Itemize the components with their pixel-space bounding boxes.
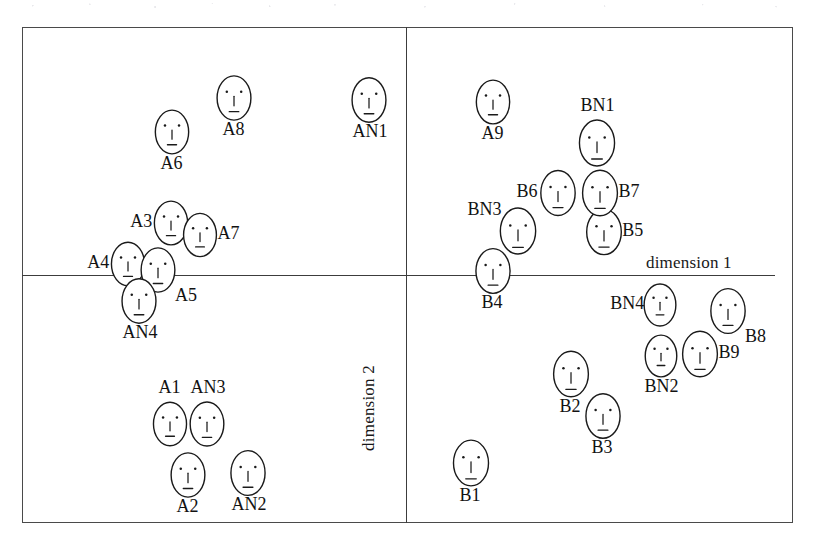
face-drawing: [473, 77, 513, 127]
face-label-bn1: BN1: [581, 96, 615, 114]
face-label-a3: A3: [130, 212, 152, 230]
face-drawing: [680, 329, 720, 379]
face-label-b7: B7: [618, 182, 639, 200]
face-drawing: [583, 391, 623, 441]
face-drawing: [150, 399, 190, 449]
mds-face-plot: dimension 1 dimension 2 A1A2A3A4A5A6A7A8…: [0, 0, 817, 542]
face-drawing: [580, 168, 620, 218]
face-label-an1: AN1: [353, 122, 388, 140]
face-label-a8: A8: [222, 120, 244, 138]
face-label-bn2: BN2: [645, 377, 679, 395]
face-drawing: [187, 399, 227, 449]
dimension-2-axis-line: [406, 27, 407, 523]
face-label-an3: AN3: [191, 378, 226, 396]
face-drawing: [538, 168, 578, 218]
face-label-a2: A2: [176, 497, 198, 515]
face-label-b3: B3: [591, 438, 612, 456]
face-drawing: [180, 210, 220, 260]
face-drawing: [640, 280, 680, 330]
dimension-1-axis-label: dimension 1: [646, 253, 732, 273]
face-label-a7: A7: [217, 224, 239, 242]
dimension-2-axis-label: dimension 2: [359, 365, 379, 451]
face-drawing: [119, 276, 159, 326]
face-label-bn4: BN4: [610, 294, 644, 312]
face-label-b1: B1: [459, 486, 480, 504]
face-label-b6: B6: [517, 182, 538, 200]
face-drawing: [349, 75, 389, 125]
face-label-a9: A9: [481, 124, 503, 142]
face-label-b8: B8: [745, 327, 766, 345]
face-label-a1: A1: [158, 378, 180, 396]
face-drawing: [641, 331, 681, 381]
face-drawing: [168, 450, 208, 500]
face-label-b5: B5: [622, 221, 643, 239]
face-label-a6: A6: [160, 154, 182, 172]
face-drawing: [577, 118, 617, 168]
face-label-b4: B4: [481, 293, 502, 311]
face-drawing: [214, 73, 254, 123]
face-label-an4: AN4: [123, 323, 158, 341]
face-drawing: [152, 107, 192, 157]
face-label-b9: B9: [718, 343, 739, 361]
face-label-b2: B2: [559, 397, 580, 415]
face-label-an2: AN2: [232, 495, 267, 513]
face-label-a4: A4: [87, 253, 109, 271]
face-drawing: [498, 206, 538, 256]
face-drawing: [228, 448, 268, 498]
face-label-bn3: BN3: [468, 200, 502, 218]
face-drawing: [451, 438, 491, 488]
scan-noise-artifact: [0, 0, 817, 14]
face-label-a5: A5: [175, 286, 197, 304]
